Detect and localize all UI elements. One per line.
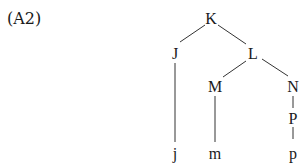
syntax-tree: K J L M N P j m p (0, 0, 303, 168)
leaf-m: m (209, 145, 222, 162)
node-M: M (208, 78, 222, 95)
node-N: N (287, 78, 299, 95)
edge-K-L (218, 25, 246, 44)
leaf-p: p (289, 145, 297, 163)
node-J: J (172, 45, 178, 62)
node-P: P (289, 110, 298, 127)
tree-nodes: K J L M N P j m p (172, 10, 299, 163)
edge-L-M (223, 61, 246, 77)
edge-L-N (262, 59, 288, 76)
tree-edges (175, 25, 293, 142)
edge-K-J (180, 25, 205, 42)
node-L: L (248, 45, 258, 62)
node-K: K (205, 10, 217, 27)
leaf-j: j (172, 145, 177, 163)
